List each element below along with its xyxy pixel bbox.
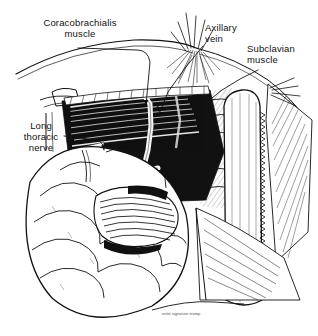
artist-signature: artist signature stamp xyxy=(162,312,200,317)
label-subclavian-muscle: Subclavian muscle xyxy=(247,43,309,65)
label-coracobrachialis-muscle: Coracobrachialis muscle xyxy=(28,17,132,39)
label-long-thoracic-nerve: Long thoracic nerve xyxy=(16,120,66,153)
label-axillary-vein: Axillary vein xyxy=(205,22,259,44)
